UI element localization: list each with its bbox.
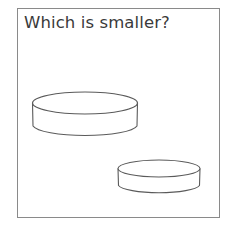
small-cylinder[interactable] [118,160,200,193]
large-cylinder[interactable] [33,92,138,135]
cylinder-top [33,92,138,114]
shapes-canvas [0,0,235,235]
cylinder-top [118,160,200,177]
